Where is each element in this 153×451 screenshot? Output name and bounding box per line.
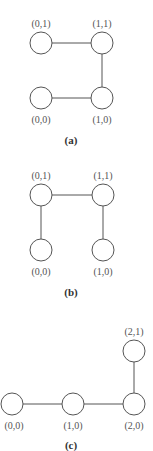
node-a-0-1 — [30, 32, 52, 54]
node-b-0-1 — [30, 184, 52, 206]
node-label: (1,0) — [63, 420, 82, 432]
node-label: (2,0) — [124, 420, 143, 432]
node-label: (1,0) — [92, 114, 111, 126]
node-b-1-1 — [92, 184, 114, 206]
node-c-2-1 — [123, 340, 145, 362]
panel-caption: (a) — [65, 134, 78, 147]
panel-caption: (c) — [65, 439, 78, 451]
panel-caption: (b) — [64, 286, 78, 299]
node-c-1-0 — [62, 393, 84, 415]
node-label: (0,0) — [4, 420, 23, 432]
node-label: (2,1) — [124, 326, 143, 338]
node-label: (1,1) — [92, 18, 111, 30]
panel-c: (2,1) (0,0) (1,0) (2,0) (c) — [1, 326, 145, 451]
node-c-2-0 — [123, 393, 145, 415]
node-a-1-0 — [91, 87, 113, 109]
node-label: (0,1) — [31, 170, 50, 182]
node-a-0-0 — [30, 87, 52, 109]
node-label: (0,0) — [31, 114, 50, 126]
panel-a: (0,1) (1,1) (0,0) (1,0) (a) — [30, 18, 113, 147]
graph-diagram: (0,1) (1,1) (0,0) (1,0) (a) (0,1) (1,1) … — [0, 0, 153, 451]
node-c-0-0 — [1, 393, 23, 415]
node-b-1-0 — [92, 239, 114, 261]
node-a-1-1 — [91, 32, 113, 54]
node-label: (1,0) — [93, 266, 112, 278]
node-b-0-0 — [30, 239, 52, 261]
node-label: (0,0) — [31, 266, 50, 278]
node-label: (0,1) — [31, 18, 50, 30]
panel-b: (0,1) (1,1) (0,0) (1,0) (b) — [30, 170, 114, 299]
node-label: (1,1) — [93, 170, 112, 182]
